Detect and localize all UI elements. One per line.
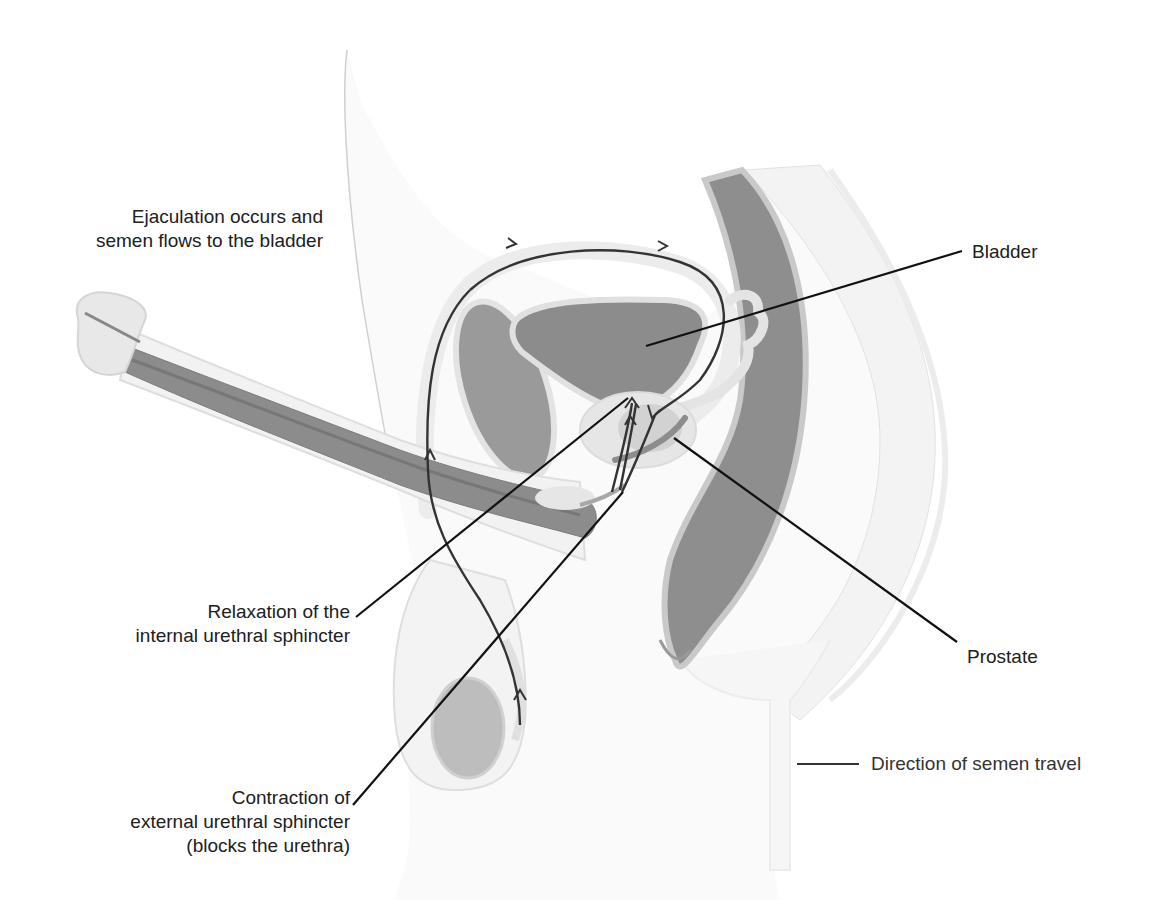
label-prostate: Prostate <box>967 645 1038 669</box>
legend: Direction of semen travel <box>797 753 1081 775</box>
testis <box>432 678 504 778</box>
legend-line-swatch <box>797 763 859 765</box>
legend-label: Direction of semen travel <box>871 753 1081 775</box>
anatomy-illustration <box>0 0 1176 912</box>
label-external-sphincter: Contraction of external urethral sphinct… <box>130 786 350 858</box>
label-internal-sphincter: Relaxation of the internal urethral sphi… <box>136 600 350 648</box>
label-ejaculation: Ejaculation occurs and semen flows to th… <box>96 205 323 253</box>
label-bladder: Bladder <box>972 240 1038 264</box>
scrotum <box>394 560 526 790</box>
